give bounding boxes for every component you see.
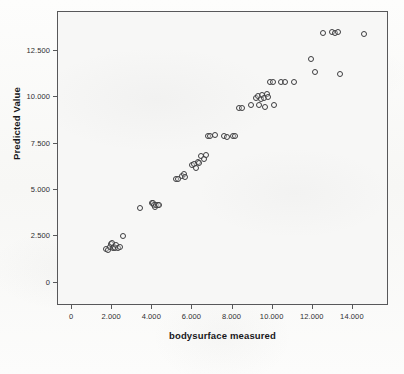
x-tick-label: 4.000 [142,312,161,321]
y-tick-mark [53,189,57,190]
data-point [335,29,341,35]
x-tick-label: 6.000 [182,312,201,321]
x-tick-label: 0 [69,312,73,321]
data-point [120,233,126,239]
x-tick-mark [71,305,72,309]
y-tick-mark [53,96,57,97]
y-tick-label: 2.500 [31,231,50,240]
y-tick-mark [53,143,57,144]
x-tick-label: 2.000 [102,312,121,321]
data-point [248,102,254,108]
x-tick-label: 14.000 [340,312,364,321]
data-point [262,104,268,110]
x-tick-mark [312,305,313,309]
data-point [232,133,238,139]
x-tick-mark [191,305,192,309]
data-point [193,165,199,171]
y-tick-mark [53,50,57,51]
data-point [361,31,367,37]
data-point [182,174,188,180]
data-point [156,202,162,208]
x-tick-mark [232,305,233,309]
x-tick-label: 8.000 [222,312,241,321]
x-tick-mark [111,305,112,309]
y-tick-mark [53,282,57,283]
data-point [308,56,314,62]
data-point [282,79,288,85]
data-point [320,30,326,36]
data-point [212,132,218,138]
y-tick-label: 0 [46,277,50,286]
x-tick-mark [352,305,353,309]
x-tick-mark [272,305,273,309]
data-point [117,244,123,250]
x-tick-mark [151,305,152,309]
data-point [265,94,271,100]
y-tick-mark [53,235,57,236]
x-tick-label: 10.000 [260,312,284,321]
x-axis-title: bodysurface measured [57,330,388,341]
data-point [337,71,343,77]
y-tick-label: 10.000 [26,92,50,101]
data-point [239,105,245,111]
data-point [271,102,277,108]
scatter-plot-figure: 02.0004.0006.0008.00010.00012.00014.000 … [0,0,404,374]
data-point [312,69,318,75]
y-axis-title: Predicted Value [11,64,22,184]
data-point [203,152,209,158]
data-point [137,205,143,211]
data-point [291,79,297,85]
plot-area-frame [57,11,388,305]
data-point [270,79,276,85]
x-tick-label: 12.000 [300,312,324,321]
y-tick-label: 5.000 [31,185,50,194]
plot-area-background [58,12,387,304]
y-tick-label: 7.500 [31,138,50,147]
y-tick-label: 12.500 [26,45,50,54]
data-point [224,134,230,140]
